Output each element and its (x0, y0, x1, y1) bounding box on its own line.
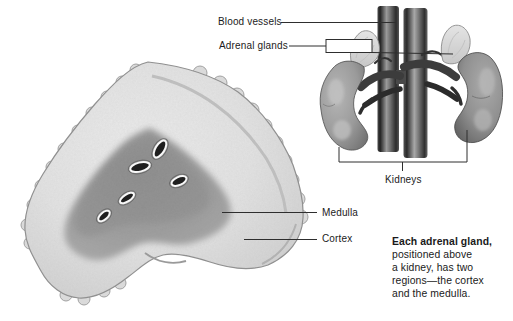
gland-texture (20, 58, 310, 306)
kidneys-illustration (320, 6, 502, 158)
caption-lead: Each adrenal gland, (392, 235, 504, 248)
cortex-label: Cortex (322, 233, 352, 244)
figure-adrenal-anatomy: Blood vessels Adrenal glands Kidneys Med… (0, 0, 513, 321)
left-kidney (320, 61, 368, 150)
adrenal-glands-label: Adrenal glands (219, 40, 288, 51)
vena-cava-vessel (404, 8, 428, 158)
blood-vessels-label: Blood vessels (218, 16, 282, 27)
caption-line: and the medulla. (392, 287, 504, 300)
kidneys-label: Kidneys (385, 174, 422, 185)
adrenal-cross-section (20, 58, 310, 306)
right-kidney (455, 53, 503, 143)
adrenal-glands-callout-box (326, 40, 372, 53)
caption-line: regions—the cortex (392, 274, 504, 287)
figure-caption: Each adrenal gland, positioned above a k… (392, 235, 504, 300)
caption-line: a kidney, has two (392, 261, 504, 274)
caption-line: positioned above (392, 248, 504, 261)
medulla-label: Medulla (322, 207, 358, 218)
